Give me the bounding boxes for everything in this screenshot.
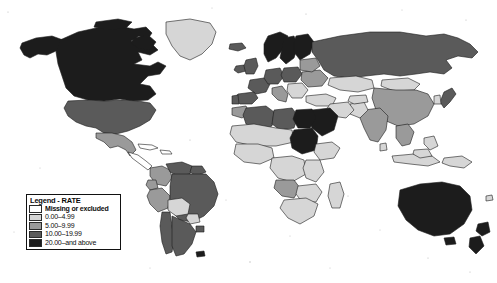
legend-swatch-20-and-above [29, 239, 42, 247]
legend-item-missing: Missing or excluded [29, 205, 118, 213]
legend-label-missing: Missing or excluded [45, 205, 109, 213]
region-falklands [196, 251, 205, 257]
region-tasmania [444, 237, 456, 245]
legend-item-20-and-above: 20.00–and above [29, 239, 118, 247]
region-korea [434, 95, 441, 104]
map-legend: Legend - RATE Missing or excluded 0.00–4… [26, 194, 121, 250]
legend-item-0-to-4: 0.00–4.99 [29, 213, 118, 221]
legend-label-10-to-19: 10.00–19.99 [45, 230, 82, 238]
legend-swatch-0-to-4 [29, 214, 42, 222]
legend-swatch-10-to-19 [29, 231, 42, 239]
world-choropleth-figure: .c0{fill:#ffffff;} .c1{fill:#d6d6d6;} .c… [0, 0, 497, 283]
region-portugal [232, 95, 239, 104]
legend-swatch-missing [29, 205, 42, 213]
legend-label-20-and-above: 20.00–and above [45, 239, 96, 247]
legend-item-5-to-9: 5.00–9.99 [29, 222, 118, 230]
region-afghanistan [348, 95, 368, 104]
legend-label-5-to-9: 5.00–9.99 [45, 222, 74, 230]
legend-item-10-to-19: 10.00–19.99 [29, 230, 118, 238]
region-sri-lanka [380, 143, 387, 151]
region-fiji [486, 195, 493, 201]
legend-swatch-5-to-9 [29, 222, 42, 230]
legend-title: Legend - RATE [29, 196, 118, 205]
legend-label-0-to-4: 0.00–4.99 [45, 213, 74, 221]
region-uruguay [196, 226, 204, 232]
